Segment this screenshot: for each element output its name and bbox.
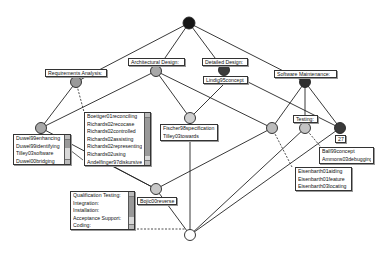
label-count-27: 27: [335, 135, 346, 143]
scroll-thumb[interactable]: [129, 197, 134, 217]
list-item[interactable]: Integration:: [73, 200, 126, 208]
scroll-down-arrow-icon[interactable]: [129, 224, 134, 229]
label-detailed-design: Detailed Design:: [202, 58, 248, 66]
list-item[interactable]: Duwel99identifying: [16, 143, 62, 151]
list-item[interactable]: Richards02controlled: [87, 128, 142, 136]
list-item[interactable]: Richards02representing: [87, 143, 142, 151]
label-software-maintenance: Software Maintenance:: [274, 70, 337, 78]
list-item[interactable]: Ammons03debugging: [322, 156, 371, 164]
label-requirements-analysis: Requirements Analysis:: [45, 69, 107, 77]
listbox-boettger[interactable]: Boettger01reconciling Richards02recocase…: [84, 112, 151, 166]
scroll-down-arrow-icon[interactable]: [65, 159, 70, 164]
list-item[interactable]: Tilley03towards: [163, 133, 215, 141]
list-item[interactable]: Richards02recocase: [87, 121, 142, 129]
node-top[interactable]: [183, 17, 195, 29]
list-item[interactable]: Tilley03software: [16, 150, 62, 158]
list-item[interactable]: Duwel00bridging: [16, 158, 62, 165]
list-item[interactable]: Duwel99enhancing: [16, 135, 62, 143]
node-27[interactable]: [335, 123, 346, 134]
list-item[interactable]: Coding:: [73, 222, 126, 230]
node-software-maintenance[interactable]: [300, 77, 311, 88]
list-item[interactable]: Acceptance Support:: [73, 215, 126, 223]
list-item[interactable]: Andelfinger97diskursive: [87, 159, 142, 166]
scrollbar[interactable]: [64, 135, 70, 164]
list-item[interactable]: Richards02assisting: [87, 136, 142, 144]
node-eisenbarth[interactable]: [267, 123, 278, 134]
list-item[interactable]: Eisenbarth01feature: [298, 176, 349, 184]
listbox-duwel[interactable]: Duwel99enhancing Duwel99identifying Till…: [13, 134, 71, 165]
listbox-eisenbarth[interactable]: Eisenbarth01aiding Eisenbarth01feature E…: [295, 167, 352, 191]
node-testing[interactable]: [300, 123, 311, 134]
listbox-qualification[interactable]: Qualification Testing: Integration: Inst…: [70, 191, 135, 230]
listbox-ball[interactable]: Ball99concept Ammons03debugging: [319, 147, 374, 164]
list-item[interactable]: Installation:: [73, 207, 126, 215]
scroll-down-arrow-icon[interactable]: [145, 160, 150, 165]
label-architectural-design: Architectural Design:: [128, 58, 185, 66]
node-bottom[interactable]: [185, 230, 196, 241]
list-item[interactable]: Boettger01reconciling: [87, 113, 142, 121]
list-item[interactable]: Fischer98specification: [163, 125, 215, 133]
list-item[interactable]: Ball99concept: [322, 148, 371, 156]
scroll-thumb[interactable]: [145, 118, 150, 156]
node-fischer[interactable]: [185, 113, 196, 124]
listbox-fischer[interactable]: Fischer98specification Tilley03towards: [160, 124, 218, 141]
node-requirements-analysis[interactable]: [71, 77, 82, 88]
node-bojic[interactable]: [151, 184, 162, 195]
list-item[interactable]: Eisenbarth03locating: [298, 183, 349, 191]
label-bojic00reverse: Bojic00reverse: [137, 197, 177, 205]
list-item[interactable]: Eisenbarth01aiding: [298, 168, 349, 176]
node-detailed-design[interactable]: [219, 65, 230, 76]
scrollbar[interactable]: [144, 113, 150, 165]
node-architectural-design[interactable]: [151, 66, 162, 77]
node-duwel[interactable]: [36, 123, 47, 134]
list-item[interactable]: Richards02using: [87, 151, 142, 159]
scroll-thumb[interactable]: [65, 140, 70, 148]
scrollbar[interactable]: [128, 192, 134, 229]
label-lindig95concept: Lindig95concept: [203, 76, 248, 84]
list-item[interactable]: Qualification Testing:: [73, 192, 126, 200]
label-testing: Testing:: [293, 115, 318, 123]
